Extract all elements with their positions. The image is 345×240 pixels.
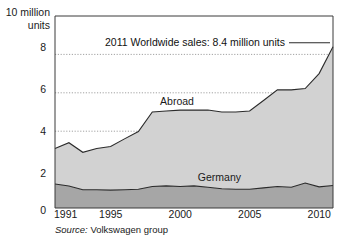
series-label-germany: Germany (198, 171, 241, 183)
annotation-worldwide-sales: 2011 Worldwide sales: 8.4 million units (105, 36, 285, 48)
source-note: Source: Volkswagen group (55, 224, 168, 235)
x-tick-2010: 2010 (308, 209, 331, 220)
source-value: Volkswagen group (88, 224, 168, 235)
area-series-layer (55, 47, 333, 208)
x-tick-2005: 2005 (238, 209, 261, 220)
x-tick-1995: 1995 (99, 209, 122, 220)
chart-container: 10 million units 8 6 4 2 0 Abroad German… (0, 0, 345, 240)
x-tick-1991: 1991 (54, 209, 77, 220)
series-label-abroad: Abroad (160, 95, 194, 107)
x-tick-2000: 2000 (169, 209, 192, 220)
source-label: Source: (55, 224, 88, 235)
